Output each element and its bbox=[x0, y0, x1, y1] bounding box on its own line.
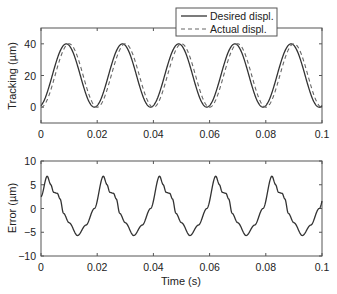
x-tick-label: 0 bbox=[38, 261, 44, 273]
x-tick-label: 0 bbox=[38, 128, 44, 140]
y-tick-label: 20 bbox=[24, 70, 36, 82]
error-y-label: Error (µm) bbox=[6, 183, 18, 233]
x-tick-label: 0.02 bbox=[87, 261, 108, 273]
figure: 00.020.040.060.080.1 02040 Tracking (µm)… bbox=[0, 0, 337, 294]
x-tick-label: 0.08 bbox=[256, 128, 277, 140]
error-line bbox=[41, 176, 322, 235]
time-x-label: Time (s) bbox=[161, 275, 201, 287]
legend-desired-label: Desired displ. bbox=[210, 10, 274, 22]
x-tick-label: 0.02 bbox=[87, 128, 108, 140]
actual-displacement-line bbox=[41, 44, 322, 107]
y-tick-label: −5 bbox=[24, 226, 36, 238]
x-tick-label: 0.06 bbox=[199, 261, 220, 273]
tracking-axes: 00.020.040.060.080.1 02040 Tracking (µm) bbox=[6, 28, 329, 140]
x-tick-label: 0.08 bbox=[256, 261, 277, 273]
x-tick-label: 0.06 bbox=[199, 128, 220, 140]
legend: Desired displ. Actual displ. bbox=[176, 8, 277, 36]
x-tick-label: 0.04 bbox=[143, 261, 164, 273]
x-tick-label: 0.04 bbox=[143, 128, 164, 140]
y-tick-label: −10 bbox=[18, 250, 36, 262]
tracking-y-label: Tracking (µm) bbox=[6, 42, 18, 110]
y-tick-label: 0 bbox=[30, 101, 36, 113]
y-tick-label: 5 bbox=[30, 179, 36, 191]
x-tick-label: 0.1 bbox=[315, 261, 330, 273]
error-axes: 00.020.040.060.080.1 −10−50510 Error (µm… bbox=[6, 155, 329, 287]
y-tick-label: 10 bbox=[24, 155, 36, 167]
y-tick-label: 40 bbox=[24, 38, 36, 50]
x-tick-label: 0.1 bbox=[315, 128, 330, 140]
y-tick-label: 0 bbox=[30, 203, 36, 215]
legend-actual-label: Actual displ. bbox=[210, 23, 267, 35]
